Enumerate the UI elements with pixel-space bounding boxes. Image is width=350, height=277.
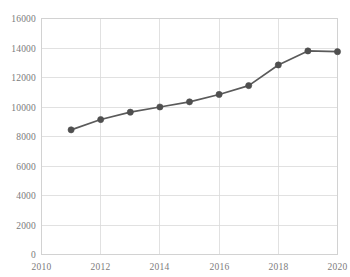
data-point-2014 <box>157 104 163 110</box>
data-point-2019 <box>305 48 311 54</box>
xtick-label-2012: 2012 <box>91 262 111 272</box>
xtick-label-2020: 2020 <box>328 262 348 272</box>
ytick-label-8000: 8000 <box>16 132 36 142</box>
ytick-label-14000: 14000 <box>11 44 36 54</box>
xtick-label-2016: 2016 <box>210 262 230 272</box>
chart-canvas: 16000 14000 12000 10000 8000 6000 4000 2… <box>0 0 350 277</box>
xtick-label-2014: 2014 <box>150 262 170 272</box>
xtick-label-2010: 2010 <box>32 262 52 272</box>
data-point-2018 <box>275 62 281 68</box>
ytick-label-4000: 4000 <box>16 191 36 201</box>
ytick-label-16000: 16000 <box>11 14 36 24</box>
data-point-2020 <box>334 49 340 55</box>
xtick-label-2018: 2018 <box>269 262 289 272</box>
data-point-2017 <box>246 83 252 89</box>
data-point-2015 <box>186 99 192 105</box>
ytick-label-0: 0 <box>31 250 36 260</box>
data-point-2011 <box>68 127 74 133</box>
ytick-label-6000: 6000 <box>16 162 36 172</box>
data-point-2012 <box>98 116 104 122</box>
data-point-2013 <box>127 109 133 115</box>
ytick-label-12000: 12000 <box>11 73 36 83</box>
ytick-label-10000: 10000 <box>11 103 36 113</box>
ytick-label-2000: 2000 <box>16 221 36 231</box>
line-chart: 16000 14000 12000 10000 8000 6000 4000 2… <box>0 0 350 277</box>
data-point-2016 <box>216 91 222 97</box>
chart-background <box>0 0 350 277</box>
